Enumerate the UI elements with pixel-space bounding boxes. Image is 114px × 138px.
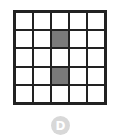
grid-cell	[51, 48, 69, 66]
grid-cell	[69, 12, 87, 30]
grid-cell-shaded	[51, 67, 69, 85]
grid-cell	[87, 85, 105, 103]
grid-cell	[87, 30, 105, 48]
grid-cell	[33, 12, 51, 30]
grid-cell	[15, 12, 33, 30]
grid-cell	[33, 30, 51, 48]
grid-cell	[33, 67, 51, 85]
grid-cell-shaded	[51, 30, 69, 48]
grid-cell	[87, 48, 105, 66]
grid-cell	[87, 67, 105, 85]
option-badge-d[interactable]: D	[51, 116, 70, 135]
grid-cell	[15, 30, 33, 48]
grid-cell	[69, 67, 87, 85]
grid-cell	[51, 85, 69, 103]
grid-cell	[15, 85, 33, 103]
grid-cell	[51, 12, 69, 30]
grid-cell	[69, 85, 87, 103]
grid-cell	[69, 48, 87, 66]
grid-cell	[15, 67, 33, 85]
grid-cell	[33, 85, 51, 103]
grid-cell	[15, 48, 33, 66]
grid-cell	[69, 30, 87, 48]
grid-cell	[87, 12, 105, 30]
grid-5x5	[13, 10, 107, 105]
grid-cell	[33, 48, 51, 66]
